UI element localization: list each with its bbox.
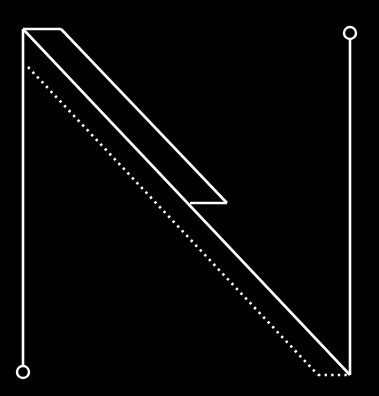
background bbox=[0, 0, 379, 396]
letter-n-diagram bbox=[0, 0, 379, 396]
